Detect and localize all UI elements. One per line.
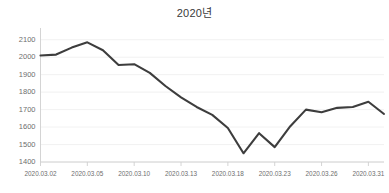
- x-tick-label: 2020.03.26: [306, 170, 338, 177]
- y-tick-label: 1500: [19, 140, 36, 149]
- y-tick-label: 1600: [19, 122, 36, 131]
- y-tick-label: 1400: [19, 157, 36, 166]
- x-tick-label: 2020.03.23: [259, 170, 291, 177]
- x-tick-label: 2020.03.10: [118, 170, 150, 177]
- x-axis: 2020.03.022020.03.052020.03.102020.03.13…: [25, 162, 385, 177]
- x-tick-label: 2020.03.05: [71, 170, 103, 177]
- series-line: [41, 42, 385, 153]
- y-tick-label: 1900: [19, 70, 36, 79]
- x-tick-label: 2020.03.13: [165, 170, 197, 177]
- x-tick-label: 2020.03.31: [352, 170, 384, 177]
- y-tick-label: 2000: [19, 52, 36, 61]
- x-tick-label: 2020.03.18: [212, 170, 244, 177]
- y-tick-label: 1700: [19, 105, 36, 114]
- y-tick-label: 2100: [19, 35, 36, 44]
- y-tick-label: 1800: [19, 87, 36, 96]
- data-series: [41, 42, 385, 153]
- chart-plot-area: 14001500160017001800190020002100 2020.03…: [0, 0, 389, 193]
- gridlines: [41, 40, 385, 162]
- line-chart: 2020년 14001500160017001800190020002100 2…: [0, 0, 389, 193]
- x-tick-label: 2020.03.02: [25, 170, 57, 177]
- y-axis: 14001500160017001800190020002100: [19, 28, 41, 166]
